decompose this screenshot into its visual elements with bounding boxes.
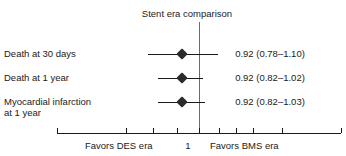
x-axis-tick bbox=[253, 128, 254, 133]
axis-caption-right: Favors BMS era bbox=[210, 140, 279, 151]
x-axis-tick bbox=[199, 128, 200, 133]
row-estimate-death-1-year: 0.92 (0.82–1.02) bbox=[208, 72, 332, 83]
x-axis-tick bbox=[282, 128, 283, 133]
x-axis-tick bbox=[57, 128, 58, 133]
row-label-death-1-year: Death at 1 year bbox=[4, 72, 69, 83]
x-axis-tick bbox=[126, 128, 127, 133]
x-axis-tick bbox=[341, 128, 342, 133]
row-estimate-death-30-days: 0.92 (0.78–1.10) bbox=[208, 48, 332, 59]
point-estimate-marker bbox=[176, 72, 187, 83]
axis-null-label: 1 bbox=[181, 140, 195, 151]
row-label-death-30-days: Death at 30 days bbox=[4, 48, 76, 59]
x-axis-tick bbox=[153, 128, 154, 133]
x-axis-tick bbox=[236, 128, 237, 133]
chart-title: Stent era comparison bbox=[112, 8, 262, 19]
row-estimate-myocardial-infarction-1-year: 0.92 (0.82–1.03) bbox=[208, 96, 332, 107]
row-label-myocardial-infarction-1-year: Myocardial infarction at 1 year bbox=[4, 96, 91, 118]
x-axis-line bbox=[57, 133, 341, 134]
forest-plot: Stent era comparison Death at 30 days De… bbox=[0, 0, 346, 156]
point-estimate-marker bbox=[176, 96, 187, 107]
x-axis-tick bbox=[177, 128, 178, 133]
x-axis-tick bbox=[219, 128, 220, 133]
axis-caption-left: Favors DES era bbox=[85, 140, 153, 151]
point-estimate-marker bbox=[176, 48, 187, 59]
